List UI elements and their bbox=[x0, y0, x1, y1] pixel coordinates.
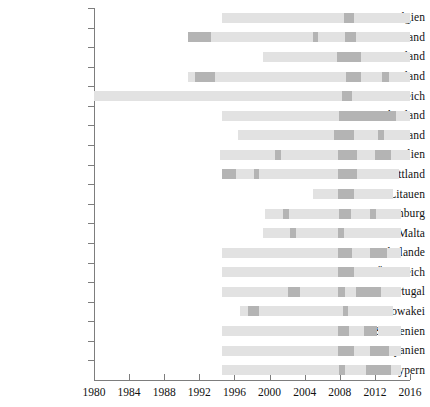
bar-row bbox=[313, 189, 393, 199]
bar-segment-light bbox=[289, 209, 339, 219]
bar-segment-light bbox=[376, 209, 401, 219]
y-tick bbox=[88, 145, 94, 146]
bar-segment-dark bbox=[345, 32, 356, 42]
bar-segment-light bbox=[354, 267, 410, 277]
bar-segment-dark bbox=[339, 209, 351, 219]
bar-segment-light bbox=[236, 169, 254, 179]
y-tick bbox=[88, 302, 94, 303]
bar-row bbox=[222, 267, 410, 277]
bar-segment-light bbox=[352, 248, 370, 258]
bar-row bbox=[263, 52, 410, 62]
bar-segment-dark bbox=[338, 326, 349, 336]
bar-segment-light bbox=[263, 52, 337, 62]
bar-segment-light bbox=[354, 189, 394, 199]
bar-segment-dark bbox=[338, 189, 354, 199]
bar-segment-light bbox=[356, 32, 410, 42]
bar-segment-light bbox=[348, 306, 394, 316]
bar-segment-light bbox=[215, 72, 346, 82]
bar-segment-light bbox=[345, 365, 366, 375]
y-tick bbox=[88, 165, 94, 166]
bar-segment-dark bbox=[338, 150, 357, 160]
bar-row bbox=[188, 72, 410, 82]
x-axis-line bbox=[94, 380, 410, 381]
y-tick bbox=[88, 86, 94, 87]
bar-segment-light bbox=[357, 150, 375, 160]
bar-segment-light bbox=[391, 365, 402, 375]
bar-segment-dark bbox=[344, 13, 354, 23]
x-tick bbox=[199, 374, 200, 380]
bar-segment-dark bbox=[288, 287, 300, 297]
y-tick bbox=[88, 8, 94, 9]
bar-segment-light bbox=[222, 248, 338, 258]
bar-segment-dark bbox=[342, 91, 352, 101]
bar-segment-light bbox=[263, 228, 289, 238]
y-tick bbox=[88, 282, 94, 283]
bar-segment-light bbox=[381, 287, 401, 297]
bar-segment-light bbox=[222, 346, 338, 356]
bar-segment-light bbox=[387, 248, 401, 258]
bar-segment-dark bbox=[370, 346, 389, 356]
bar-segment-light bbox=[300, 287, 338, 297]
y-axis-line bbox=[94, 8, 95, 380]
bar-segment-light bbox=[222, 287, 288, 297]
bar-row bbox=[222, 248, 401, 258]
bar-segment-light bbox=[222, 267, 338, 277]
bar-segment-light bbox=[240, 306, 248, 316]
bar-segment-dark bbox=[366, 365, 391, 375]
bar-segment-dark bbox=[356, 287, 381, 297]
bar-segment-light bbox=[357, 169, 399, 179]
bar-segment-light bbox=[259, 306, 343, 316]
bar-segment-light bbox=[354, 130, 379, 140]
bar-row bbox=[220, 150, 410, 160]
bar-segment-light bbox=[318, 32, 345, 42]
bar-segment-light bbox=[220, 150, 274, 160]
bar-segment-dark bbox=[382, 72, 389, 82]
bar-segment-light bbox=[345, 287, 356, 297]
y-tick bbox=[88, 106, 94, 107]
bar-segment-dark bbox=[370, 248, 388, 258]
bar-segment-dark bbox=[248, 306, 259, 316]
bar-segment-dark bbox=[222, 169, 236, 179]
bar-segment-light bbox=[94, 91, 342, 101]
x-tick bbox=[164, 374, 165, 380]
y-tick bbox=[88, 321, 94, 322]
bar-segment-dark bbox=[337, 52, 361, 62]
bar-segment-light bbox=[344, 228, 401, 238]
bar-segment-dark bbox=[338, 169, 357, 179]
bar-segment-light bbox=[389, 346, 401, 356]
bar-segment-dark bbox=[339, 111, 396, 121]
bar-row bbox=[222, 365, 401, 375]
x-tick bbox=[94, 374, 95, 380]
y-tick bbox=[88, 341, 94, 342]
bar-row bbox=[222, 287, 401, 297]
bar-segment-light bbox=[222, 365, 339, 375]
x-tick bbox=[129, 374, 130, 380]
bar-segment-light bbox=[361, 72, 382, 82]
bar-segment-dark bbox=[338, 248, 352, 258]
bar-segment-light bbox=[351, 209, 369, 219]
y-tick bbox=[88, 204, 94, 205]
bar-row bbox=[188, 32, 410, 42]
x-tick-label: 2016 bbox=[387, 386, 430, 399]
bar-segment-light bbox=[352, 91, 410, 101]
bar-segment-light bbox=[349, 326, 364, 336]
y-tick bbox=[88, 28, 94, 29]
bar-segment-light bbox=[222, 111, 339, 121]
bar-segment-light bbox=[296, 228, 338, 238]
y-tick bbox=[88, 184, 94, 185]
bar-segment-light bbox=[222, 326, 338, 336]
bar-segment-dark bbox=[338, 287, 345, 297]
bar-row bbox=[222, 111, 410, 121]
bar-row bbox=[94, 91, 410, 101]
bar-segment-light bbox=[396, 111, 410, 121]
bar-row bbox=[222, 169, 399, 179]
y-tick bbox=[88, 243, 94, 244]
bar-row bbox=[265, 209, 401, 219]
bar-segment-light bbox=[354, 346, 370, 356]
bar-row bbox=[263, 228, 401, 238]
y-tick bbox=[88, 125, 94, 126]
y-tick bbox=[88, 223, 94, 224]
bar-segment-dark bbox=[338, 346, 354, 356]
bar-row bbox=[222, 326, 401, 336]
